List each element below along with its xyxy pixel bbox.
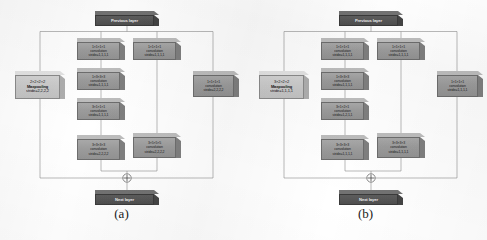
next-layer-block-b: Next layer xyxy=(339,190,403,205)
left-conv-block-a-1: 1×1×1×1 convolution stride=1,1,1,1 xyxy=(77,38,125,60)
block-side-face xyxy=(478,75,483,97)
maxpool-block-a: 2×2×2×2 Maxpooling stride=2,2,2,2 xyxy=(15,71,65,99)
block-side-face xyxy=(60,75,65,99)
figure-panel-b: Previous layer 3×2×2×2 Maxpooling stride… xyxy=(244,0,487,240)
conv-stride-label: stride=1,2,1,1 xyxy=(333,113,353,118)
block-front-face: Next layer xyxy=(339,194,398,205)
block-front-face: 1×1×1×1 convolution stride=1,1,1,1 xyxy=(437,75,478,97)
block-front-face: 1×3×3×3 convolution stride=1,1,1,1 xyxy=(77,72,120,90)
block-front-face: 3×1×2×1 convolution stride=1,2,1,1 xyxy=(321,102,364,120)
block-side-face xyxy=(364,42,369,60)
sum-node-a xyxy=(123,174,131,182)
block-front-face: Previous layer xyxy=(339,15,398,26)
block-side-face xyxy=(120,102,125,120)
conv-stride-label: stride=1,1,1,1 xyxy=(333,53,353,58)
block-side-face xyxy=(398,194,403,205)
left-conv-block-b-4: 3×3×3×3 convolution stride=1,1,1,1 xyxy=(321,135,369,160)
block-side-face xyxy=(398,15,403,26)
block-label: Next layer xyxy=(359,197,378,202)
block-side-face xyxy=(234,75,239,97)
block-front-face: 1×1×1×1 convolution stride=2,2,2,2 xyxy=(193,75,234,97)
block-side-face xyxy=(364,102,369,120)
block-side-face xyxy=(154,15,159,26)
middle-conv-block-a-1: 1×1×1×1 convolution stride=1,1,1,1 xyxy=(133,38,181,60)
left-conv-block-a-2: 1×3×3×3 convolution stride=1,1,1,1 xyxy=(77,68,125,90)
block-front-face: 1×3×3×3 convolution stride=1,1,1,1 xyxy=(321,72,364,90)
block-front-face: 3×2×2×2 Maxpooling stride=1,1,1,1 xyxy=(259,75,304,99)
block-front-face: 1×1×1×1 convolution stride=1,1,1,1 xyxy=(77,42,120,60)
block-front-face: 1×1×1×1 convolution stride=1,1,1,1 xyxy=(133,42,176,60)
conv-stride-label: stride=1,1,1,1 xyxy=(333,152,353,157)
block-front-face: 3×3×3×3 convolution stride=1,1,1,1 xyxy=(377,137,420,158)
block-side-face xyxy=(364,72,369,90)
block-front-face: 3×5×5×5 convolution stride=2,2,2,2 xyxy=(133,137,176,158)
block-side-face xyxy=(120,139,125,160)
conv-stride-label: stride=1,1,1,1 xyxy=(389,53,409,58)
previous-layer-block-b: Previous layer xyxy=(339,11,403,26)
pool-stride-label: stride=2,2,2,2 xyxy=(26,89,49,94)
right-branch-conv-block-a: 1×1×1×1 convolution stride=2,2,2,2 xyxy=(193,71,239,97)
block-side-face xyxy=(120,72,125,90)
block-front-face: Next layer xyxy=(95,194,154,205)
sum-node-b xyxy=(367,174,375,182)
conv-stride-label: stride=2,2,2,2 xyxy=(204,88,224,93)
middle-conv-block-b-2: 3×3×3×3 convolution stride=1,1,1,1 xyxy=(377,133,425,158)
figure-panel-a: Previous layer 2×2×2×2 Maxpooling stride… xyxy=(0,0,243,240)
block-label: Previous layer xyxy=(355,18,382,23)
conv-stride-label: stride=1,1,1,1 xyxy=(448,88,468,93)
conv-stride-label: stride=1,1,1,1 xyxy=(333,83,353,88)
conv-stride-label: stride=1,1,1,1 xyxy=(89,113,109,118)
block-side-face xyxy=(304,75,309,99)
next-layer-block-a: Next layer xyxy=(95,190,159,205)
block-front-face: Previous layer xyxy=(95,15,154,26)
right-branch-conv-block-b: 1×1×1×1 convolution stride=1,1,1,1 xyxy=(437,71,483,97)
block-label: Previous layer xyxy=(111,18,138,23)
block-side-face xyxy=(154,194,159,205)
middle-conv-block-a-2: 3×5×5×5 convolution stride=2,2,2,2 xyxy=(133,133,181,158)
conv-stride-label: stride=2,2,2,2 xyxy=(89,152,109,157)
middle-conv-block-b-1: 1×1×1×1 convolution stride=1,1,1,1 xyxy=(377,38,425,60)
block-side-face xyxy=(420,42,425,60)
block-front-face: 3×3×3×3 convolution stride=2,2,2,2 xyxy=(77,139,120,160)
panel-b-caption: (b) xyxy=(244,206,487,222)
block-front-face: 1×1×1×1 convolution stride=1,1,1,1 xyxy=(377,42,420,60)
conv-stride-label: stride=1,1,1,1 xyxy=(389,150,409,155)
conv-stride-label: stride=1,1,1,1 xyxy=(145,53,165,58)
conv-stride-label: stride=1,1,1,1 xyxy=(89,83,109,88)
pool-stride-label: stride=1,1,1,1 xyxy=(270,89,293,94)
block-front-face: 1×1×1×1 convolution stride=1,1,1,1 xyxy=(321,42,364,60)
left-conv-block-b-2: 1×3×3×3 convolution stride=1,1,1,1 xyxy=(321,68,369,90)
block-side-face xyxy=(120,42,125,60)
block-side-face xyxy=(420,137,425,158)
block-front-face: 3×3×3×3 convolution stride=1,1,1,1 xyxy=(321,139,364,160)
left-conv-block-a-3: 3×1×1×1 convolution stride=1,1,1,1 xyxy=(77,98,125,120)
previous-layer-block-a: Previous layer xyxy=(95,11,159,26)
left-conv-block-a-4: 3×3×3×3 convolution stride=2,2,2,2 xyxy=(77,135,125,160)
maxpool-block-b: 3×2×2×2 Maxpooling stride=1,1,1,1 xyxy=(259,71,309,99)
block-front-face: 2×2×2×2 Maxpooling stride=2,2,2,2 xyxy=(15,75,60,99)
block-side-face xyxy=(176,137,181,158)
left-conv-block-b-1: 1×1×1×1 convolution stride=1,1,1,1 xyxy=(321,38,369,60)
conv-stride-label: stride=2,2,2,2 xyxy=(145,150,165,155)
block-side-face xyxy=(176,42,181,60)
block-front-face: 3×1×1×1 convolution stride=1,1,1,1 xyxy=(77,102,120,120)
block-label: Next layer xyxy=(115,197,134,202)
left-conv-block-b-3: 3×1×2×1 convolution stride=1,2,1,1 xyxy=(321,98,369,120)
conv-stride-label: stride=1,1,1,1 xyxy=(89,53,109,58)
panel-a-caption: (a) xyxy=(0,206,243,222)
block-side-face xyxy=(364,139,369,160)
